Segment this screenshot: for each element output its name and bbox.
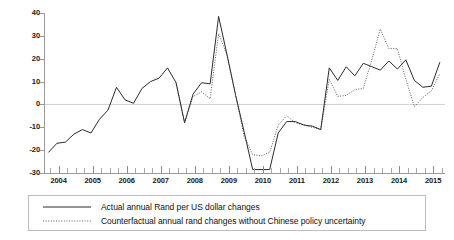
y-tick-label: -30 (14, 169, 40, 177)
y-tick-label: 10 (14, 78, 40, 86)
x-major-tick (127, 166, 128, 173)
chart-plot-svg (45, 13, 445, 173)
x-minor-tick (416, 168, 417, 173)
x-minor-tick (246, 168, 247, 173)
legend-label-counterfactual: Counterfactual annual rand changes witho… (101, 216, 365, 226)
x-minor-tick (425, 168, 426, 173)
x-minor-tick (110, 168, 111, 173)
x-minor-tick (203, 168, 204, 173)
y-tick-label: -20 (14, 146, 40, 154)
x-minor-tick (391, 168, 392, 173)
x-tick-label: 2015 (413, 176, 453, 185)
x-minor-tick (118, 168, 119, 173)
x-major-tick (331, 166, 332, 173)
x-minor-tick (178, 168, 179, 173)
series-actual-line (48, 16, 439, 169)
x-minor-tick (135, 168, 136, 173)
chart-legend: Actual annual Rand per US dollar changes… (28, 195, 426, 231)
x-minor-tick (288, 168, 289, 173)
x-minor-tick (220, 168, 221, 173)
legend-swatch-solid-line-icon (43, 202, 91, 212)
x-minor-tick (271, 168, 272, 173)
x-minor-tick (152, 168, 153, 173)
legend-item-actual: Actual annual Rand per US dollar changes (29, 200, 425, 214)
x-major-tick (161, 166, 162, 173)
x-minor-tick (254, 168, 255, 173)
x-minor-tick (442, 168, 443, 173)
x-minor-tick (169, 168, 170, 173)
x-minor-tick (322, 168, 323, 173)
x-minor-tick (408, 168, 409, 173)
x-minor-tick (339, 168, 340, 173)
x-major-tick (433, 166, 434, 173)
x-major-tick (195, 166, 196, 173)
x-major-tick (399, 166, 400, 173)
x-minor-tick (212, 168, 213, 173)
x-minor-tick (144, 168, 145, 173)
x-minor-tick (101, 168, 102, 173)
x-axis-ticks (45, 168, 445, 173)
x-major-tick (297, 166, 298, 173)
y-tick-label: 20 (14, 55, 40, 63)
x-minor-tick (186, 168, 187, 173)
x-major-tick (365, 166, 366, 173)
chart-figure: 403020100-10-20-30 200420052006200720082… (0, 0, 454, 240)
legend-item-counterfactual: Counterfactual annual rand changes witho… (29, 214, 425, 228)
y-tick-label: 40 (14, 9, 40, 17)
x-minor-tick (50, 168, 51, 173)
x-minor-tick (374, 168, 375, 173)
series-counterfactual-line (176, 29, 440, 156)
x-minor-tick (305, 168, 306, 173)
x-minor-tick (382, 168, 383, 173)
x-minor-tick (280, 168, 281, 173)
y-tick-label: -10 (14, 123, 40, 131)
y-tick-label: 0 (14, 100, 40, 108)
x-major-tick (93, 166, 94, 173)
x-minor-tick (356, 168, 357, 173)
x-major-tick (229, 166, 230, 173)
plot-area (45, 13, 445, 173)
x-minor-tick (237, 168, 238, 173)
x-minor-tick (76, 168, 77, 173)
y-tick-label: 30 (14, 32, 40, 40)
x-major-tick (263, 166, 264, 173)
x-minor-tick (314, 168, 315, 173)
x-minor-tick (348, 168, 349, 173)
legend-label-actual: Actual annual Rand per US dollar changes (101, 202, 260, 212)
x-axis-line (44, 173, 445, 174)
legend-swatch-dotted-line-icon (43, 216, 91, 226)
x-axis: 2004200520062007200820092010201120122013… (45, 176, 445, 188)
x-minor-tick (84, 168, 85, 173)
x-minor-tick (67, 168, 68, 173)
x-major-tick (59, 166, 60, 173)
